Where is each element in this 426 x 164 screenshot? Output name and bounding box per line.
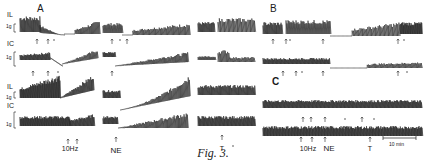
figure-caption: Fig. 3. <box>0 146 426 161</box>
scale-label-3: 1g <box>6 94 12 101</box>
panel-label-b: B <box>270 4 277 14</box>
trace-plot <box>0 0 426 164</box>
scale-label-1: 1g <box>6 23 12 30</box>
panel-label-c: C <box>272 77 279 87</box>
channel-label-il-1: IL <box>7 11 13 18</box>
scale-label-4: 1g <box>6 121 12 128</box>
channel-label-ic-1: IC <box>7 40 14 47</box>
channel-label-ic-2: IC <box>7 102 14 109</box>
scale-label-2: 1g <box>6 54 12 61</box>
panel-label-a: A <box>37 4 44 14</box>
channel-label-il-2: IL <box>7 83 13 90</box>
